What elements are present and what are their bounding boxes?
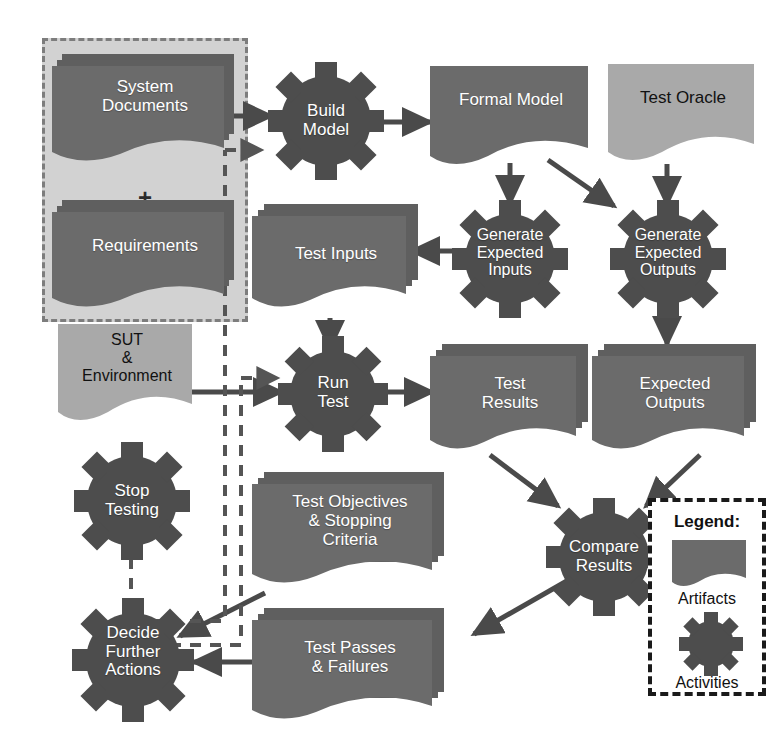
artifact-test-passes[interactable]: Test Passes & Failures [252,606,448,730]
artifact-test-objectives[interactable]: Test Objectives & Stopping Criteria [252,470,448,594]
artifact-expected-outputs[interactable]: Expected Outputs [592,342,758,460]
activity-stop-testing[interactable]: Stop Testing [74,440,190,562]
artifact-test-inputs[interactable]: Test Inputs [252,202,420,318]
artifact-sut-environment[interactable]: SUT & Environment [58,322,196,432]
activity-compare-results[interactable]: Compare Results [546,496,662,618]
artifact-requirements[interactable]: Requirements [52,196,238,314]
legend-title: Legend: [652,512,762,532]
legend-box: Legend: Artifacts [648,498,766,696]
activity-decide-further-actions[interactable]: Decide Further Actions [72,596,194,724]
artifact-system-documents[interactable]: System Documents [52,50,238,168]
artifact-formal-model[interactable]: Formal Model [430,62,592,172]
legend-activity-swatch [679,612,743,680]
legend-activity-caption: Activities [652,674,762,692]
activity-build-model[interactable]: Build Model [268,60,384,182]
activity-run-test[interactable]: Run Test [278,336,388,452]
artifact-test-results[interactable]: Test Results [430,342,590,460]
legend-artifact-swatch [672,540,750,594]
activity-generate-expected-outputs[interactable]: Generate Expected Outputs [610,198,726,320]
activity-generate-expected-inputs[interactable]: Generate Expected Inputs [452,198,568,320]
diagram-canvas: + [0,0,776,748]
legend-artifact-caption: Artifacts [652,590,762,608]
artifact-test-oracle[interactable]: Test Oracle [608,60,758,170]
